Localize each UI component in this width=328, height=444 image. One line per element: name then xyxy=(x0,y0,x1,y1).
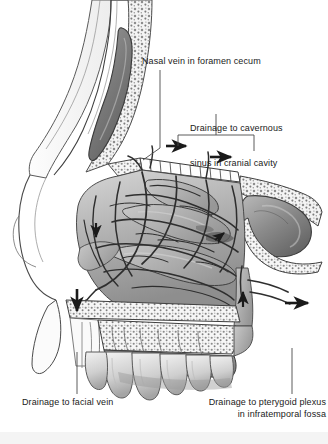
label-pterygoid-plexus: Drainage to pterygoid plexus in infratem… xyxy=(178,397,326,420)
label-cavernous-line2: sinus in cranial cavity xyxy=(190,158,283,170)
nasal-dorsum xyxy=(13,175,56,300)
bottom-band xyxy=(0,432,328,444)
label-cavernous-line1: Drainage to cavernous xyxy=(190,123,283,135)
anatomy-figure: Nasal vein in foramen cecum Drainage to … xyxy=(0,0,328,444)
label-facial-vein: Drainage to facial vein xyxy=(22,397,113,409)
upper-teeth xyxy=(85,352,233,400)
label-nasal-vein: Nasal vein in foramen cecum xyxy=(142,56,261,68)
label-cavernous-sinus: Drainage to cavernous sinus in cranial c… xyxy=(190,100,283,192)
label-pterygoid-line1: Drainage to pterygoid plexus xyxy=(178,397,326,409)
label-pterygoid-line2: in infratemporal fossa xyxy=(178,409,326,421)
